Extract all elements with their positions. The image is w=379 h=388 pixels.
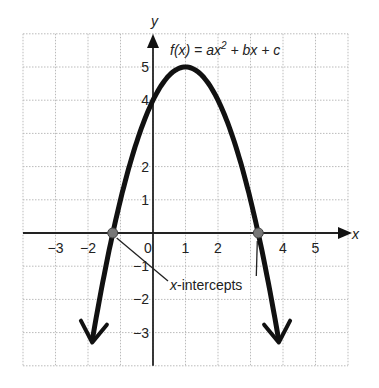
svg-text:−3: −3: [133, 325, 149, 341]
y-axis-label: y: [150, 13, 159, 29]
svg-text:−1: −1: [133, 258, 149, 274]
svg-text:2: 2: [141, 159, 149, 175]
x-axis-label: x: [351, 226, 360, 242]
svg-text:2: 2: [214, 240, 222, 256]
parabola-chart: −3−2012455421−1−2−3 f(x) = ax2 + bx + c …: [0, 0, 379, 388]
svg-text:5: 5: [141, 59, 149, 75]
svg-text:5: 5: [312, 240, 320, 256]
svg-text:1: 1: [141, 192, 149, 208]
svg-text:4: 4: [279, 240, 287, 256]
grid: [23, 34, 348, 366]
function-title: f(x) = ax2 + bx + c: [170, 40, 280, 58]
svg-text:1: 1: [182, 240, 190, 256]
svg-text:−3: −3: [48, 240, 64, 256]
svg-text:−2: −2: [133, 291, 149, 307]
annotation-label: x-intercepts: [169, 277, 242, 293]
svg-text:0: 0: [144, 240, 152, 256]
svg-text:−2: −2: [80, 240, 96, 256]
